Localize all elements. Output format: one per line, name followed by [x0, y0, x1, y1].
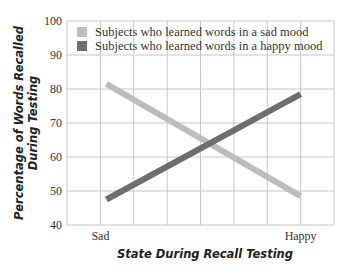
- series-line-happy-mood: [106, 94, 300, 199]
- legend-swatch-sad: [77, 27, 87, 37]
- y-tick-label: 80: [50, 82, 62, 96]
- legend-label-happy: Subjects who learned words in a happy mo…: [95, 39, 323, 53]
- series-line-sad-mood: [106, 84, 300, 196]
- legend: Subjects who learned words in a sad mood…: [77, 25, 323, 53]
- x-tick-label: Happy: [285, 229, 317, 243]
- legend-label-sad: Subjects who learned words in a sad mood: [95, 25, 309, 39]
- y-axis-title-line1: Percentage of Words Recalled: [12, 25, 26, 220]
- x-tick-label: Sad: [91, 229, 109, 243]
- y-axis-title: Percentage of Words Recalled During Test…: [12, 25, 40, 220]
- y-tick-label: 70: [50, 116, 62, 130]
- y-tick-label: 60: [50, 150, 62, 164]
- legend-swatch-happy: [77, 41, 87, 51]
- data-lines: [106, 84, 300, 200]
- x-axis-ticks: SadHappy: [91, 229, 316, 243]
- y-tick-label: 40: [50, 218, 62, 232]
- x-axis-title: State During Recall Testing: [117, 247, 293, 261]
- y-tick-label: 50: [50, 184, 62, 198]
- y-tick-label: 90: [50, 48, 62, 62]
- y-axis-title-line2: During Testing: [26, 76, 40, 171]
- y-axis-ticks: 405060708090100: [44, 14, 62, 232]
- y-tick-label: 100: [44, 14, 62, 28]
- line-chart: 405060708090100 SadHappy Subjects who le…: [0, 0, 349, 271]
